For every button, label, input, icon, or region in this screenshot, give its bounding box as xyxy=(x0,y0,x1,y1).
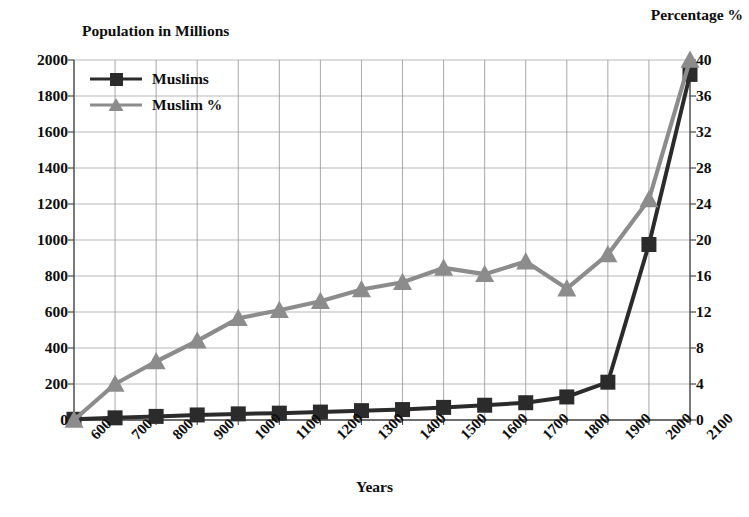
legend-item-muslims: Muslims xyxy=(88,66,222,92)
legend-label-muslims: Muslims xyxy=(152,70,209,88)
x-axis-tick-label: 1700 xyxy=(540,432,551,443)
x-axis-tick-label: 1000 xyxy=(252,432,263,443)
x-axis-tick-label: 600 xyxy=(88,432,99,443)
x-axis-tick-label: 1400 xyxy=(417,432,428,443)
x-axis-tick-label: 1300 xyxy=(375,432,386,443)
x-axis-tick-label: 800 xyxy=(170,432,181,443)
x-axis-tick-label: 1200 xyxy=(334,432,345,443)
legend: Muslims Muslim % xyxy=(88,66,222,118)
x-axis-tick-label: 1500 xyxy=(458,432,469,443)
x-axis-tick-label: 900 xyxy=(211,432,222,443)
x-axis-tick-label: 1100 xyxy=(293,432,304,443)
x-axis-tick-label: 1800 xyxy=(581,432,592,443)
x-axis-tick-label: 2100 xyxy=(704,432,715,443)
x-axis-tick-label: 1900 xyxy=(622,432,633,443)
x-axis-tick-label: 700 xyxy=(129,432,140,443)
chart-container: Population in Millions Percentage % Year… xyxy=(0,0,749,517)
legend-item-muslim-pct: Muslim % xyxy=(88,92,222,118)
legend-label-muslim-pct: Muslim % xyxy=(152,96,222,114)
x-axis-tick-label: 1600 xyxy=(499,432,510,443)
legend-swatch-triangle-icon xyxy=(88,96,144,114)
x-axis-tick-label: 2000 xyxy=(663,432,674,443)
legend-swatch-square-icon xyxy=(88,70,144,88)
